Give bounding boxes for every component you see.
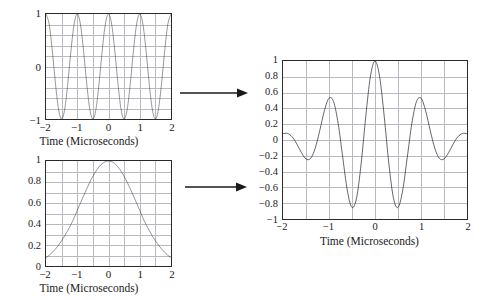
curve-product: [283, 61, 467, 219]
y-axis-tick-label: 0: [0, 262, 41, 273]
x-axis-tick-label: −2: [276, 222, 287, 233]
y-axis-tick-label: 0.8: [245, 71, 278, 82]
y-axis-tick-label: −1: [0, 115, 41, 126]
chart-carrier: −101 −2−1012 Time (Microseconds): [0, 0, 190, 145]
y-axis-tick-label: 1: [245, 55, 278, 66]
arrow-carrier-to-product: [180, 86, 248, 100]
x-axis-label-product: Time (Microseconds): [245, 236, 494, 248]
x-axis-tick-label: 0: [372, 222, 377, 233]
y-axis-tick-label: 0.6: [245, 87, 278, 98]
y-axis-tick-label: 0.4: [245, 103, 278, 114]
x-axis-tick-label: 1: [419, 222, 424, 233]
x-axis-tick-label: 0: [106, 122, 112, 133]
curve-envelope: [46, 161, 171, 266]
y-axis-tick-label: −0.4: [245, 167, 278, 178]
x-axis-tick-label: −2: [39, 122, 51, 133]
x-axis-tick-label: 2: [465, 222, 470, 233]
y-axis-tick-label: 0.8: [0, 176, 41, 187]
x-axis-tick-label: 2: [169, 122, 175, 133]
x-axis-tick-label: −1: [71, 269, 83, 280]
y-axis-tick-label: 0.6: [0, 198, 41, 209]
chart-product: −1−0.8−0.6−0.4−0.200.20.40.60.81 −2−1012…: [245, 48, 494, 253]
y-axis-tick-label: −1: [245, 215, 278, 226]
x-axis-label-carrier: Time (Microseconds): [0, 136, 184, 148]
x-axis-tick-label: −1: [71, 122, 83, 133]
x-axis-tick-label: −2: [39, 269, 51, 280]
y-axis-tick-label: −0.8: [245, 199, 278, 210]
y-axis-tick-label: 0: [245, 135, 278, 146]
y-axis-tick-label: 1: [0, 155, 41, 166]
x-axis-tick-label: 0: [106, 269, 112, 280]
y-axis-tick-label: 1: [0, 8, 41, 19]
y-axis-tick-label: 0: [0, 61, 41, 72]
plot-area-product: [282, 60, 468, 220]
x-axis-tick-label: 1: [138, 122, 144, 133]
chart-envelope: 00.20.40.60.81 −2−1012 Time (Microsecond…: [0, 150, 190, 300]
plot-area-envelope: [45, 160, 172, 267]
x-axis-tick-label: 2: [169, 269, 175, 280]
y-axis-tick-label: 0.2: [245, 119, 278, 130]
y-axis-tick-label: −0.6: [245, 183, 278, 194]
y-axis-tick-label: 0.2: [0, 240, 41, 251]
y-axis-tick-label: −0.2: [245, 151, 278, 162]
curve-carrier: [46, 14, 171, 119]
x-axis-tick-label: 1: [138, 269, 144, 280]
figure-root: −101 −2−1012 Time (Microseconds) 00.20.4…: [0, 0, 494, 300]
x-axis-label-envelope: Time (Microseconds): [0, 283, 184, 295]
plot-area-carrier: [45, 13, 172, 120]
x-axis-tick-label: −1: [323, 222, 334, 233]
y-axis-tick-label: 0.4: [0, 219, 41, 230]
arrow-envelope-to-product: [185, 180, 247, 194]
